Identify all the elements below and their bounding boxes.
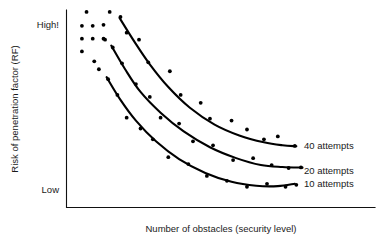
data-point xyxy=(80,50,84,54)
data-point xyxy=(116,93,120,97)
data-point xyxy=(177,122,181,126)
data-point xyxy=(80,24,84,28)
data-point xyxy=(139,127,143,131)
data-point xyxy=(276,135,280,139)
series-label: 10 attempts xyxy=(304,178,354,189)
trend-curve xyxy=(111,46,302,168)
scatter-plot-svg: High! Low Risk of penetration factor (RF… xyxy=(0,0,387,240)
series-label: 20 attempts xyxy=(304,165,354,176)
data-point xyxy=(284,185,288,189)
data-point xyxy=(293,144,297,148)
data-point xyxy=(231,158,235,162)
series-label-layer: 40 attempts20 attempts10 attempts xyxy=(304,140,354,189)
data-point xyxy=(120,61,124,65)
trend-curve xyxy=(107,77,295,186)
data-point xyxy=(166,155,170,159)
data-point xyxy=(148,95,152,99)
series-group xyxy=(97,67,298,188)
data-point xyxy=(125,31,129,35)
data-point xyxy=(108,10,112,14)
data-point xyxy=(186,162,190,166)
data-point xyxy=(299,166,303,170)
x-axis-title: Number of obstacles (security level) xyxy=(146,223,297,234)
series-label: 40 attempts xyxy=(304,140,354,151)
data-point xyxy=(91,37,95,41)
cluster-scatter-layer xyxy=(80,10,107,63)
data-point xyxy=(191,139,195,143)
data-point xyxy=(146,60,150,64)
data-point xyxy=(168,69,172,73)
data-point xyxy=(270,163,274,167)
data-point xyxy=(208,117,212,121)
data-point xyxy=(97,67,101,71)
data-point xyxy=(119,15,123,19)
data-point xyxy=(134,82,138,86)
data-point xyxy=(137,38,141,42)
data-point xyxy=(91,24,95,28)
data-point xyxy=(211,143,215,147)
data-point xyxy=(92,59,96,63)
y-axis-top-tick-label: High! xyxy=(37,19,59,30)
data-point xyxy=(125,116,129,120)
data-point xyxy=(265,182,269,186)
data-point xyxy=(199,101,203,105)
series-group xyxy=(108,10,297,148)
data-point xyxy=(262,137,266,141)
series-layer xyxy=(97,10,303,189)
data-point xyxy=(230,119,234,123)
data-point xyxy=(85,10,89,14)
data-point xyxy=(159,116,163,120)
data-point xyxy=(103,38,107,42)
data-point xyxy=(151,137,155,141)
data-point xyxy=(245,128,249,132)
trend-curve xyxy=(120,18,297,146)
data-point xyxy=(111,46,115,50)
data-point xyxy=(102,23,106,27)
data-point xyxy=(80,37,84,41)
y-axis-bottom-tick-label: Low xyxy=(42,184,60,195)
data-point xyxy=(179,93,183,97)
chart-figure: High! Low Risk of penetration factor (RF… xyxy=(0,0,387,240)
data-point xyxy=(287,166,291,170)
data-point xyxy=(251,156,255,160)
data-point xyxy=(245,185,249,189)
y-axis-title: Risk of penetration factor (RF) xyxy=(9,45,20,172)
data-point xyxy=(294,183,298,187)
data-point xyxy=(106,77,110,81)
data-point xyxy=(225,179,229,183)
data-point xyxy=(205,174,209,178)
